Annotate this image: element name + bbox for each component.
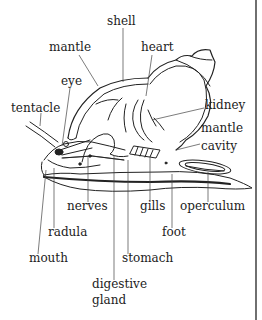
- label-mantle: mantle: [49, 41, 91, 54]
- label-shell: shell: [107, 15, 136, 28]
- label-mantle-cavity-line2: cavity: [201, 140, 237, 153]
- label-digestive-gland-line2: gland: [92, 294, 126, 307]
- label-gills: gills: [140, 200, 165, 213]
- snail-illustration: [0, 0, 262, 320]
- leader-heart: [146, 55, 152, 96]
- leader-kidney: [152, 108, 204, 120]
- label-mantle-cavity-line1: mantle: [201, 122, 243, 135]
- label-operculum: operculum: [180, 200, 245, 213]
- label-nerves: nerves: [67, 200, 108, 213]
- label-heart: heart: [141, 41, 174, 54]
- leader-eye: [62, 88, 70, 146]
- tentacle-shape: [30, 122, 58, 142]
- eye-dot: [55, 149, 63, 155]
- label-digestive-gland-line1: digestive: [92, 278, 147, 291]
- leader-mouth: [38, 170, 46, 254]
- label-kidney: kidney: [205, 99, 245, 112]
- label-stomach: stomach: [122, 252, 173, 265]
- foot-sole: [44, 177, 230, 184]
- label-foot: foot: [162, 226, 186, 239]
- label-mouth: mouth: [29, 252, 68, 265]
- label-eye: eye: [61, 75, 82, 88]
- snail-anatomy-diagram: shell mantle heart eye tentacle kidney m…: [0, 0, 262, 320]
- label-tentacle: tentacle: [11, 102, 60, 115]
- label-radula: radula: [48, 226, 87, 239]
